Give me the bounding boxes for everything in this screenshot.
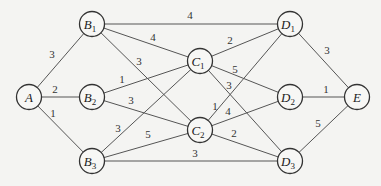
edge-weight-label: 4 (150, 31, 156, 43)
edge-weight-label: 1 (212, 100, 218, 112)
edge-c1-d1 (200, 24, 290, 61)
edge-a-b1 (29, 24, 92, 97)
node-b1: B1 (80, 12, 105, 37)
edge-weight-label: 3 (226, 79, 232, 91)
node-c1: C1 (188, 49, 213, 74)
node-label: E (352, 90, 361, 105)
edge-c1-d2 (200, 61, 290, 97)
edge-a-b3 (29, 97, 92, 161)
edge-weight-label: 3 (192, 147, 198, 159)
edge-weight-label: 5 (145, 128, 151, 140)
edge-b1-c2 (92, 24, 200, 130)
edge-weight-label: 3 (115, 122, 121, 134)
edge-weight-label: 1 (119, 73, 125, 85)
edge-weight-label: 3 (128, 94, 134, 106)
node-d1: D1 (278, 12, 303, 37)
edge-weight-label: 3 (49, 48, 55, 60)
edge-weight-label: 3 (136, 55, 142, 67)
edge-weight-label: 5 (315, 117, 321, 129)
edge-weight-label: 1 (323, 83, 329, 95)
node-label: A (24, 90, 33, 105)
edge-weight-label: 4 (187, 9, 193, 21)
edge-weight-label: 4 (225, 105, 231, 117)
node-c2: C2 (188, 118, 213, 143)
edge-weight-label: 5 (232, 63, 238, 75)
graph-diagram: 32144313353253142315 AB1B2B3C1C2D1D2D3E (0, 0, 381, 186)
edge-b2-c1 (92, 61, 200, 97)
edge-weight-label: 3 (324, 44, 330, 56)
edge-weight-label: 2 (231, 127, 237, 139)
node-a: A (17, 85, 42, 110)
node-d2: D2 (278, 85, 303, 110)
edge-c2-d1 (200, 24, 290, 130)
node-d3: D3 (278, 149, 303, 174)
node-b2: B2 (80, 85, 105, 110)
edge-weight-label: 2 (52, 83, 58, 95)
edge-weight-label: 2 (227, 34, 233, 46)
node-b3: B3 (80, 149, 105, 174)
edge-b1-c1 (92, 24, 200, 61)
edge-weight-label: 1 (50, 107, 56, 119)
node-e: E (345, 85, 370, 110)
edge-d3-e (290, 97, 357, 161)
